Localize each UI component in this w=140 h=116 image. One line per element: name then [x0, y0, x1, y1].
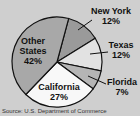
source-note: Source: U.S. Department of Commerce	[2, 108, 107, 114]
label-value: 12%	[86, 16, 136, 26]
label-value: 27%	[34, 92, 84, 102]
label-value: 42%	[16, 56, 50, 66]
label-other-states: Other States 42%	[16, 36, 50, 66]
label-value: 7%	[104, 87, 140, 97]
label-value: 12%	[104, 50, 138, 60]
label-name: New York	[86, 6, 136, 16]
label-name: California	[34, 82, 84, 92]
label-california: California 27%	[34, 82, 84, 102]
label-name: Other	[16, 36, 50, 46]
label-name: Texas	[104, 40, 138, 50]
label-florida: Florida 7%	[104, 77, 140, 97]
label-name: Florida	[104, 77, 140, 87]
label-name-2: States	[16, 46, 50, 56]
label-texas: Texas 12%	[104, 40, 138, 60]
label-new-york: New York 12%	[86, 6, 136, 26]
